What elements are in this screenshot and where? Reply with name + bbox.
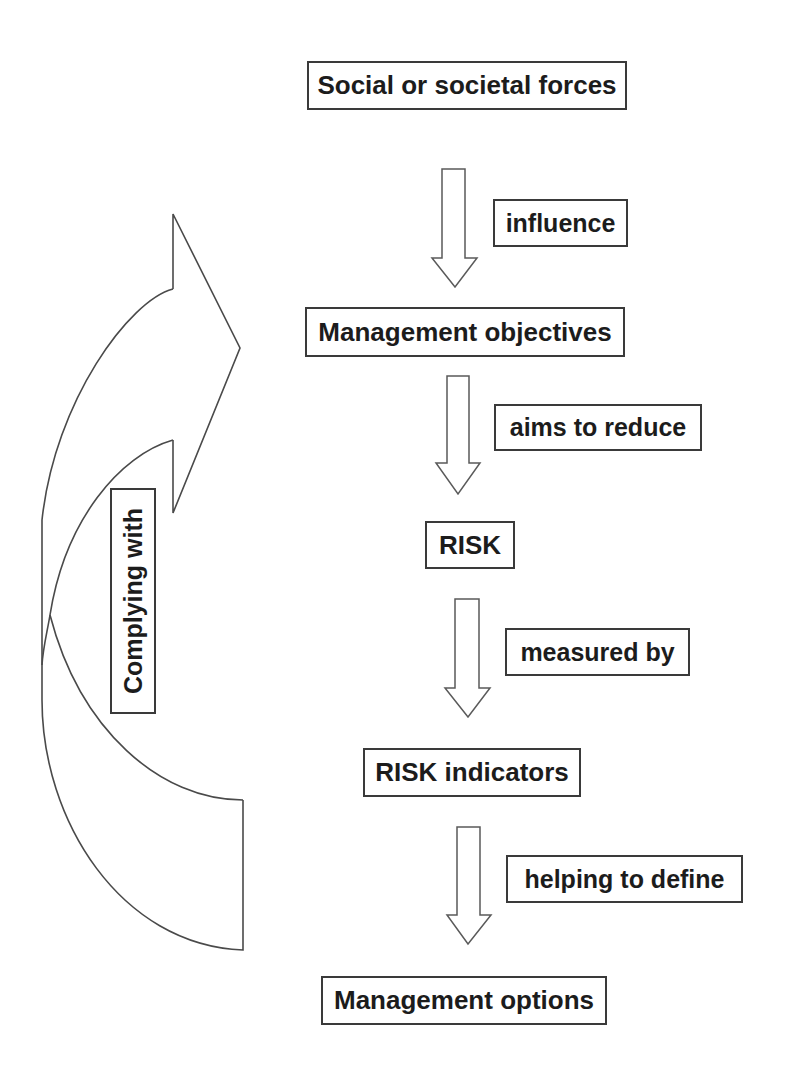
feedback-label-box: Complying with [110, 488, 156, 714]
node-social-forces: Social or societal forces [307, 61, 627, 110]
node-label: Social or societal forces [317, 70, 616, 101]
edge-label-aims-to-reduce: aims to reduce [494, 404, 702, 451]
down-arrow-icon [432, 169, 477, 287]
edge-label-influence: influence [493, 199, 628, 247]
node-label: Management options [334, 985, 594, 1016]
down-arrow-icon [436, 376, 480, 494]
node-label: RISK indicators [375, 757, 569, 788]
down-arrow-icon [445, 599, 490, 717]
edge-label-helping-to-define: helping to define [506, 855, 743, 903]
node-management-options: Management options [321, 976, 607, 1025]
node-risk: RISK [425, 521, 515, 569]
feedback-label: Complying with [119, 508, 148, 694]
node-risk-indicators: RISK indicators [363, 748, 581, 797]
edge-label: measured by [520, 638, 674, 667]
node-management-objectives: Management objectives [305, 307, 625, 357]
edge-label: aims to reduce [510, 413, 686, 442]
edge-label: helping to define [525, 865, 725, 894]
edge-label: influence [506, 209, 616, 238]
risk-management-diagram: Social or societal forces Management obj… [0, 0, 785, 1077]
edge-label-measured-by: measured by [505, 628, 690, 676]
node-label: Management objectives [318, 317, 611, 348]
down-arrow-icon [447, 827, 491, 944]
node-label: RISK [439, 530, 501, 561]
